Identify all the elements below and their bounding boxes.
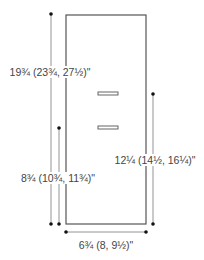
dimension-end-dot [57,126,61,130]
dimension-end-dot [49,222,53,226]
total-length-dimension [49,12,53,226]
width-dimension [64,230,148,234]
upper-slot [98,92,118,95]
dimension-end-dot [151,92,155,96]
dimension-end-dot [144,230,148,234]
dimension-end-dot [64,230,68,234]
lower-length-label: 8¾ (10¾, 11¾)" [20,172,96,184]
right-length-label: 12¼ (14½, 16¼)" [114,154,197,166]
panel-diagram [0,0,204,260]
lower-slot [98,126,118,129]
total-length-label: 19¾ (23¾, 27½)" [9,66,92,78]
width-label: 6¾ (8, 9½)" [78,239,135,251]
panel-outline [66,15,146,224]
dimension-end-dot [151,222,155,226]
dimension-end-dot [57,222,61,226]
dimension-end-dot [49,12,53,16]
